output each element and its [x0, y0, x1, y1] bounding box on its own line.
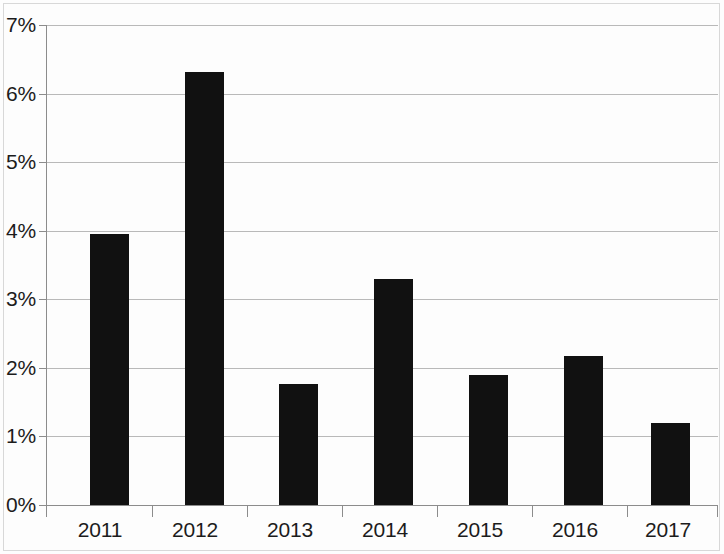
y-axis-label-3: 3% [2, 287, 36, 311]
x-tick-3 [342, 506, 343, 517]
x-axis-label-2013: 2013 [250, 518, 330, 542]
x-tick-2 [247, 506, 248, 517]
y-tick-2 [39, 368, 46, 369]
bar-2014 [374, 279, 413, 505]
y-axis-label-7: 7% [2, 13, 36, 37]
y-tick-0 [39, 505, 46, 506]
x-tick-4 [437, 506, 438, 517]
x-axis-label-2012: 2012 [155, 518, 235, 542]
y-axis-label-4: 4% [2, 219, 36, 243]
x-tick-6 [627, 506, 628, 517]
x-tick-7 [717, 506, 718, 517]
y-tick-3 [39, 299, 46, 300]
x-axis-label-2014: 2014 [345, 518, 425, 542]
bar-2013 [279, 384, 318, 505]
y-axis-label-0: 0% [2, 493, 36, 517]
x-axis-label-2011: 2011 [60, 518, 140, 542]
y-tick-1 [39, 436, 46, 437]
bar-2011 [90, 234, 129, 505]
x-axis-label-2016: 2016 [535, 518, 615, 542]
x-axis-label-2015: 2015 [440, 518, 520, 542]
y-tick-7 [39, 25, 46, 26]
x-tick-1 [152, 506, 153, 517]
y-axis-labels: 7% 6% 5% 4% 3% 2% 1% 0% [0, 0, 36, 554]
y-axis-label-2: 2% [2, 356, 36, 380]
x-tick-0 [46, 506, 47, 517]
x-axis-line [46, 505, 718, 506]
x-tick-5 [532, 506, 533, 517]
bars-layer [46, 25, 718, 505]
y-tick-4 [39, 231, 46, 232]
y-tick-6 [39, 94, 46, 95]
bar-2015 [469, 375, 508, 505]
y-axis-label-5: 5% [2, 150, 36, 174]
y-tick-5 [39, 162, 46, 163]
bar-chart: 7% 6% 5% 4% 3% 2% 1% 0% 2011 2012 2013 2… [0, 0, 724, 554]
y-axis-label-1: 1% [2, 424, 36, 448]
bar-2016 [564, 356, 603, 506]
bar-2012 [185, 72, 224, 505]
x-axis-label-2017: 2017 [628, 518, 708, 542]
y-axis-label-6: 6% [2, 82, 36, 106]
bar-2017 [651, 423, 690, 505]
